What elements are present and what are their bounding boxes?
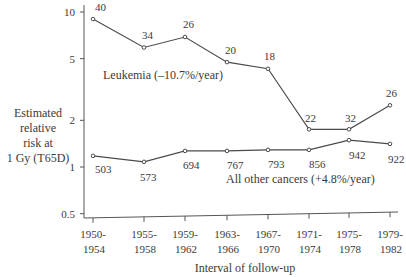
point-count-label: 40 <box>95 1 107 13</box>
y-axis-label-line: Estimated <box>14 106 62 120</box>
data-point <box>183 35 187 39</box>
point-count-label: 32 <box>345 112 356 124</box>
x-tick-label: 1982 <box>380 243 402 255</box>
point-count-label: 922 <box>388 153 405 165</box>
point-count-label: 573 <box>140 171 157 183</box>
x-tick-label: 1963- <box>214 228 240 240</box>
data-point <box>266 148 270 152</box>
point-count-label: 503 <box>95 163 112 175</box>
x-tick-label: 1971- <box>296 228 322 240</box>
y-tick-label: 0.5 <box>61 208 75 220</box>
data-point <box>225 60 229 64</box>
y-tick-label: 10 <box>64 6 76 18</box>
point-count-label: 22 <box>305 112 316 124</box>
x-axis-ticks: 1950-19541955-19581959-19621963-19661967… <box>80 212 403 255</box>
x-tick-label: 1962 <box>175 243 197 255</box>
y-axis-label: Estimatedrelativerisk at1 Gy (T65D) <box>7 106 70 165</box>
relative-risk-chart: 105210.5 1950-19541955-19581959-19621963… <box>0 0 406 277</box>
point-count-label: 20 <box>225 44 237 56</box>
y-axis-label-line: 1 Gy (T65D) <box>7 151 70 165</box>
data-point <box>388 142 392 146</box>
point-count-label: 26 <box>386 87 398 99</box>
x-tick-label: 1966 <box>217 243 240 255</box>
point-count-label: 26 <box>183 18 195 30</box>
data-point <box>307 128 311 132</box>
data-point <box>225 149 229 153</box>
x-tick-label: 1975- <box>336 228 362 240</box>
data-point <box>142 46 146 50</box>
data-point <box>183 149 187 153</box>
leukemia-series-label: Leukemia (–10.7%/year) <box>103 68 223 82</box>
y-tick-label: 2 <box>70 114 76 126</box>
y-tick-label: 5 <box>70 53 76 65</box>
point-count-label: 767 <box>227 159 244 171</box>
data-point <box>347 138 351 142</box>
x-tick-label: 1958 <box>134 243 157 255</box>
point-count-label: 793 <box>268 158 285 170</box>
x-tick-label: 1979- <box>377 228 403 240</box>
x-tick-label: 1970 <box>258 243 281 255</box>
other-cancers-series-label: All other cancers (+4.8%/year) <box>226 172 375 186</box>
y-axis-ticks: 105210.5 <box>61 6 84 220</box>
point-count-label: 856 <box>309 158 326 170</box>
data-point <box>266 67 270 71</box>
data-point <box>91 17 95 21</box>
x-tick-label: 1974 <box>299 243 322 255</box>
x-tick-label: 1955- <box>131 228 157 240</box>
series-lines: 4034262018223226503573694767793856942922 <box>91 1 404 183</box>
point-count-label: 18 <box>264 50 276 62</box>
point-count-label: 34 <box>142 29 154 41</box>
data-point <box>142 160 146 164</box>
x-tick-label: 1978 <box>339 243 362 255</box>
data-point <box>388 104 392 108</box>
y-tick-label: 1 <box>70 161 76 173</box>
data-point <box>91 154 95 158</box>
x-tick-label: 1954 <box>83 243 106 255</box>
leukemia-series: 4034262018223226 <box>91 1 397 131</box>
x-axis-label: Interval of follow-up <box>195 261 296 275</box>
data-point <box>347 128 351 132</box>
x-tick-label: 1959- <box>172 228 198 240</box>
point-count-label: 694 <box>183 159 200 171</box>
y-axis-label-line: relative <box>20 121 56 135</box>
x-tick-label: 1967- <box>255 228 281 240</box>
x-tick-label: 1950- <box>80 228 106 240</box>
data-point <box>307 148 311 152</box>
point-count-label: 942 <box>349 149 366 161</box>
y-axis-label-line: risk at <box>23 136 53 150</box>
